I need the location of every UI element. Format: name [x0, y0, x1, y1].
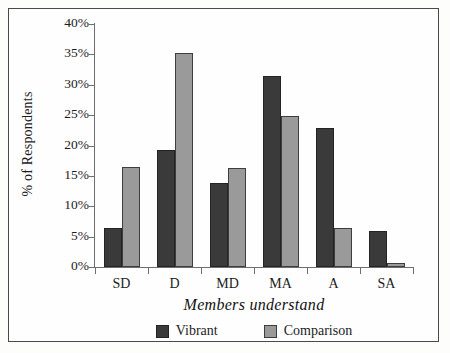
legend-item-comparison: Comparison [264, 323, 352, 339]
y-tick-label: 40% [55, 15, 89, 31]
bar-a-comparison [334, 228, 352, 267]
x-tick-label: SD [95, 276, 149, 292]
bar-d-comparison [175, 53, 193, 267]
legend-label: Comparison [284, 323, 352, 339]
y-tick-label: 20% [55, 137, 89, 153]
x-tick-mark [148, 268, 149, 274]
legend-label: Vibrant [176, 323, 218, 339]
bar-sd-comparison [122, 167, 140, 267]
x-tick-mark [254, 268, 255, 274]
bar-d-vibrant [157, 150, 175, 267]
x-tick-mark [307, 268, 308, 274]
bar-md-vibrant [210, 183, 228, 267]
y-tick-label: 10% [55, 197, 89, 213]
y-tick-label: 15% [55, 167, 89, 183]
plot-area [95, 24, 413, 267]
bar-a-vibrant [316, 128, 334, 267]
legend-swatch-icon [156, 325, 169, 338]
x-tick-label: SA [360, 276, 414, 292]
legend: VibrantComparison [95, 322, 413, 340]
y-tick-label: 0% [55, 258, 89, 274]
bar-ma-vibrant [263, 76, 281, 267]
figure: % of Respondents 0%5%10%15%20%25%30%35%4… [0, 0, 450, 353]
x-tick-mark [95, 268, 96, 274]
y-tick-label: 5% [55, 228, 89, 244]
legend-item-vibrant: Vibrant [156, 323, 218, 339]
bar-md-comparison [228, 168, 246, 267]
bar-sd-vibrant [104, 228, 122, 267]
x-tick-mark [201, 268, 202, 274]
y-tick-label: 35% [55, 45, 89, 61]
x-tick-label: D [148, 276, 202, 292]
x-tick-label: MA [254, 276, 308, 292]
x-tick-mark [413, 268, 414, 274]
y-tick-label: 25% [55, 106, 89, 122]
legend-swatch-icon [264, 325, 277, 338]
y-tick-label: 30% [55, 76, 89, 92]
x-tick-label: A [307, 276, 361, 292]
x-tick-label: MD [201, 276, 255, 292]
bar-ma-comparison [281, 116, 299, 267]
x-tick-mark [360, 268, 361, 274]
y-axis-label: % of Respondents [20, 54, 36, 234]
x-axis-label: Members understand [95, 296, 413, 314]
bar-sa-vibrant [369, 231, 387, 267]
bar-sa-comparison [387, 263, 405, 267]
